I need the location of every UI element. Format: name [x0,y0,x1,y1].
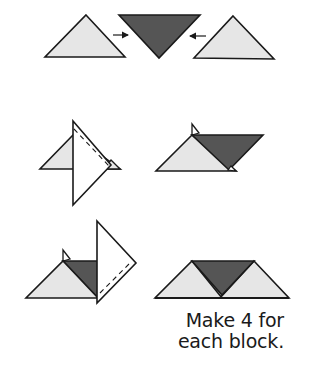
step-2-right-group [156,124,263,171]
light-triangle-left [45,15,125,57]
seam-tab-top [192,124,199,135]
white-folded-triangle [73,121,111,205]
light-triangle-right [194,16,274,59]
seam-tab-top [63,250,70,261]
step-3-right-group [155,261,289,298]
step-1-group [45,15,274,59]
caption: Make 4 for each block. [178,310,284,352]
dark-triangle-center [119,15,200,58]
caption-line-1: Make 4 for [178,310,284,331]
step-2-left-group [40,121,120,205]
step-3-left-group [26,221,136,303]
caption-line-2: each block. [178,331,284,352]
